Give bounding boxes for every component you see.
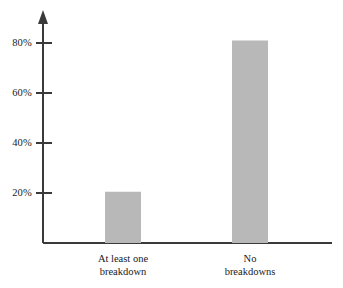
x-category-label-line-2: breakdowns <box>225 266 276 279</box>
bar-no-breakdowns <box>232 41 268 244</box>
y-tick-label-20: 20% <box>2 188 32 199</box>
x-category-label-line-2: breakdown <box>98 266 148 279</box>
bar-at-least-one-breakdown <box>105 192 141 243</box>
bar-chart: 80% 60% 40% 20% At least one breakdown N… <box>0 0 343 288</box>
y-tick-label-60: 60% <box>2 88 32 99</box>
y-tick-label-80: 80% <box>2 38 32 49</box>
x-category-label-at-least-one-breakdown: At least one breakdown <box>98 253 148 278</box>
x-category-label-line-1: No <box>225 253 276 266</box>
y-tick-label-40: 40% <box>2 138 32 149</box>
chart-canvas <box>0 0 343 288</box>
y-axis-arrow-icon <box>38 10 48 24</box>
x-category-label-line-1: At least one <box>98 253 148 266</box>
x-category-label-no-breakdowns: No breakdowns <box>225 253 276 278</box>
